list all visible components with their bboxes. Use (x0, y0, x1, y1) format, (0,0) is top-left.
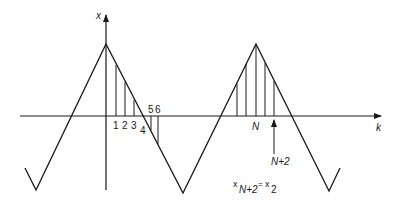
sample-label-6: 6 (155, 104, 161, 115)
sample-label-3: 3 (131, 120, 137, 131)
k-axis-label: k (376, 122, 382, 133)
sample-label-5: 5 (148, 104, 154, 115)
marker-label-n-plus-2: N+2 (271, 156, 290, 167)
equation-equals: = (258, 180, 263, 189)
x-axis-label: x (95, 10, 102, 21)
sample-stems-second-period (237, 44, 274, 116)
equation-lhs-subscript: N+2 (239, 184, 258, 195)
sample-label-1: 1 (113, 120, 119, 131)
periodic-sequence-diagram: x k 1 2 3 4 5 6 N N+2 x N+2 = x 2 (0, 0, 400, 207)
equation-rhs-subscript: 2 (271, 184, 277, 195)
equation-rhs-base: x (265, 179, 270, 189)
period-label-n: N (252, 121, 260, 132)
periodicity-equation: x N+2 = x 2 (233, 179, 277, 195)
sample-label-4: 4 (140, 125, 146, 136)
equation-lhs-base: x (233, 179, 238, 189)
sample-label-2: 2 (122, 120, 128, 131)
triangle-wave (25, 44, 340, 193)
diagram-canvas: x k 1 2 3 4 5 6 N N+2 x N+2 = x 2 (0, 0, 400, 207)
